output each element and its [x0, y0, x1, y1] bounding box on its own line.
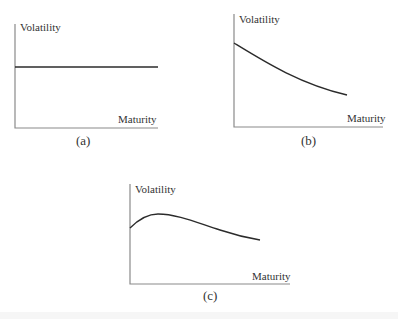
panel-a-ylabel: Volatility [20, 21, 61, 33]
panel-c-axes [130, 184, 290, 284]
panel-b-declining-curve [234, 43, 347, 95]
panel-c-humped-curve [130, 214, 260, 240]
panel-c: Volatility Maturity (c) [130, 183, 291, 303]
panel-a: Volatility Maturity (a) [15, 21, 158, 148]
panel-c-xlabel: Maturity [252, 270, 291, 282]
panel-b-axes [234, 14, 383, 127]
panel-b: Volatility Maturity (b) [234, 13, 386, 148]
panel-c-ylabel: Volatility [135, 183, 176, 195]
panel-b-xlabel: Maturity [347, 112, 386, 124]
panel-c-caption: (c) [203, 288, 217, 303]
panel-b-ylabel: Volatility [239, 13, 280, 25]
bottom-band [0, 312, 398, 319]
panel-a-caption: (a) [76, 133, 90, 148]
panel-a-xlabel: Maturity [118, 113, 157, 125]
panel-b-caption: (b) [301, 133, 316, 148]
volatility-term-structure-diagram: Volatility Maturity (a) Volatility Matur… [0, 0, 398, 319]
